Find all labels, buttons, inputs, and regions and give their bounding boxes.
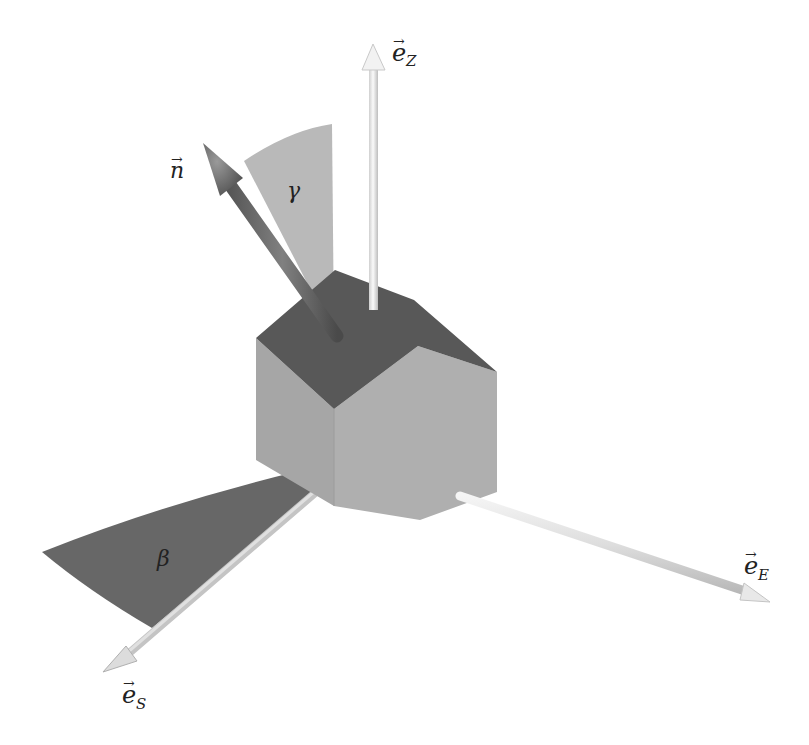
east-axis-arrow bbox=[460, 496, 770, 602]
svg-text:S: S bbox=[136, 695, 146, 713]
beta-label: β bbox=[156, 546, 170, 571]
gamma-label: γ bbox=[287, 178, 301, 203]
zenith-arrowhead-icon bbox=[362, 44, 385, 70]
svg-text:→: → bbox=[745, 546, 757, 562]
east-label: e E → bbox=[744, 546, 769, 584]
vector-arrow-mark: → bbox=[171, 151, 183, 167]
svg-text:Z: Z bbox=[405, 52, 417, 70]
svg-text:→: → bbox=[123, 675, 135, 691]
south-label: e S → bbox=[122, 675, 146, 713]
east-arrowhead-icon bbox=[740, 583, 770, 602]
house-orientation-diagram: n → γ β e Z → e E → e S → bbox=[0, 0, 809, 745]
svg-text:→: → bbox=[393, 33, 405, 49]
zenith-axis-arrow bbox=[362, 44, 385, 310]
svg-text:E: E bbox=[757, 566, 769, 584]
zenith-label: e Z → bbox=[392, 33, 417, 70]
